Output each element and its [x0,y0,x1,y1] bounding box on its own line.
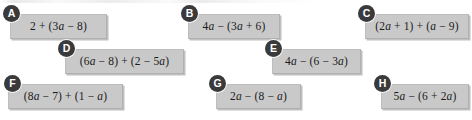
top-edge-text-bleed [0,0,472,3]
expression-box-d[interactable]: (6a − 8) + (2 − 5a) [65,49,184,74]
card-badge-f: F [4,75,21,92]
expression-card-worksheet: 2 + (3a − 8)A4a − (3a + 6)B(2a + 1) + (a… [0,0,472,120]
card-badge-c: C [358,5,375,22]
card-badge-a: A [3,5,20,22]
expression-box-f[interactable]: (8a − 7) + (1 − a) [8,84,123,109]
card-badge-e: E [265,40,282,57]
card-badge-g: G [209,75,226,92]
card-badge-d: D [58,40,75,57]
card-badge-h: H [374,75,391,92]
expression-text-a: 2 + (3a − 8) [21,21,96,33]
expression-text-b: 4a − (3a + 6) [194,21,275,33]
expression-text-f: (8a − 7) + (1 − a) [15,91,117,103]
expression-text-c: (2a + 1) + (a − 9) [366,21,468,33]
expression-box-g[interactable]: 2a − (8 − a) [216,84,301,109]
expression-text-h: 5a − (6 + 2a) [385,91,466,103]
expression-box-e[interactable]: 4a − (6 − 3a) [272,49,361,74]
expression-text-d: (6a − 8) + (2 − 5a) [71,56,178,68]
expression-box-h[interactable]: 5a − (6 + 2a) [381,84,469,109]
expression-text-g: 2a − (8 − a) [221,91,296,103]
expression-box-a[interactable]: 2 + (3a − 8) [10,14,107,39]
card-badge-b: B [181,5,198,22]
expression-box-b[interactable]: 4a − (3a + 6) [188,14,280,39]
expression-text-e: 4a − (6 − 3a) [276,56,357,68]
expression-box-c[interactable]: (2a + 1) + (a − 9) [365,14,469,39]
